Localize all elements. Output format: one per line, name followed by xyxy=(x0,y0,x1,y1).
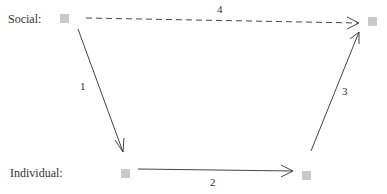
edge-label-4: 4 xyxy=(217,3,223,15)
edge-2-line xyxy=(138,169,293,171)
edges-layer xyxy=(0,0,387,194)
edge-label-2: 2 xyxy=(210,176,216,188)
edge-label-3: 3 xyxy=(342,85,348,97)
edge-3-line xyxy=(311,32,359,151)
edge-4-line xyxy=(86,18,358,23)
diagram-canvas: Social: Individual: 1 2 3 4 xyxy=(0,0,387,194)
edge-label-1: 1 xyxy=(80,80,86,92)
edge-1-arrowhead-icon xyxy=(115,138,124,152)
